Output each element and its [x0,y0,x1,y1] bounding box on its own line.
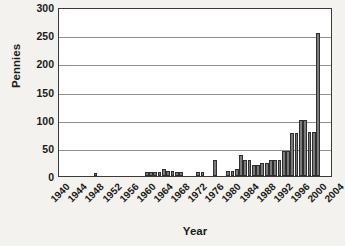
bar-1960 [145,172,149,176]
y-tick-0: 0 [28,172,54,182]
bar-1994 [290,133,294,176]
bar-1972 [196,172,200,176]
bar-1948 [94,173,98,176]
bar-1981 [235,169,239,176]
bar-1998 [308,132,312,177]
bar-1973 [201,172,205,176]
plot-area [58,8,332,177]
x-axis-tick-labels: 1940194419481952195619601964196819721976… [58,177,332,227]
x-axis-label: Year [58,225,332,237]
bar-1986 [256,165,260,176]
bar-1991 [278,160,282,176]
bar-1963 [158,172,162,176]
bar-1993 [286,151,290,176]
bar-1990 [273,160,277,176]
bar-1982 [239,155,243,176]
bar-1992 [282,151,286,176]
bar-1997 [303,120,307,176]
bar-1996 [299,120,303,176]
bar-1995 [295,133,299,176]
bar-1964 [162,169,166,176]
bar-1980 [231,171,235,176]
y-tick-250: 250 [28,31,54,41]
bar-1961 [149,172,153,176]
bar-1968 [179,172,183,176]
y-tick-100: 100 [28,116,54,126]
bar-1962 [153,172,157,176]
bar-1983 [243,160,247,176]
bar-1987 [260,163,264,176]
y-axis-label: Pennies [10,26,22,106]
bar-1979 [226,171,230,176]
bar-2000 [316,33,320,176]
bar-1967 [175,172,179,176]
bar-1999 [312,132,316,177]
bar-series [59,9,331,176]
y-tick-150: 150 [28,88,54,98]
bar-1988 [265,163,269,176]
bar-1966 [171,171,175,176]
y-tick-300: 300 [28,3,54,13]
y-tick-50: 50 [28,144,54,154]
bar-1965 [166,171,170,176]
bar-1985 [252,165,256,176]
bar-1984 [248,160,252,176]
y-tick-200: 200 [28,59,54,69]
bar-1976 [213,160,217,176]
bar-chart-figure: Pennies 050100150200250300 1940194419481… [0,0,345,246]
bar-1989 [269,160,273,176]
